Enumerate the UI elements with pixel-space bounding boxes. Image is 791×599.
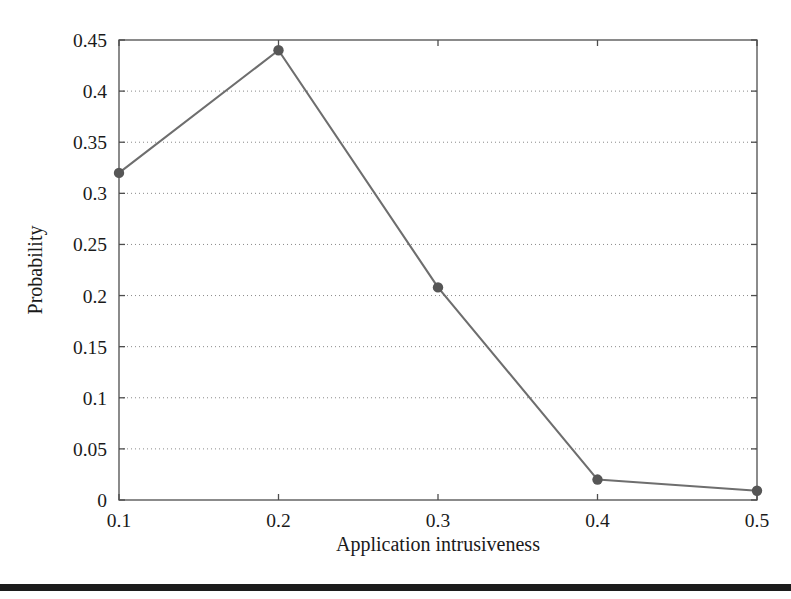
probability-vs-intrusiveness-line-chart: 00.050.10.150.20.250.30.350.40.45 0.10.2… — [0, 0, 791, 599]
x-tick-label: 0.2 — [266, 510, 290, 531]
bottom-horizontal-rule — [0, 584, 791, 591]
series-polyline — [119, 50, 757, 491]
y-axis-tick-labels: 00.050.10.150.20.250.30.350.40.45 — [73, 30, 107, 511]
x-axis-title: Application intrusiveness — [336, 533, 540, 556]
y-tick-label: 0 — [97, 490, 107, 511]
data-point-marker — [752, 486, 762, 496]
axes-frame — [119, 40, 757, 500]
figure-container: 00.050.10.150.20.250.30.350.40.45 0.10.2… — [0, 0, 791, 599]
y-tick-label: 0.15 — [73, 337, 107, 358]
gridlines — [119, 91, 757, 449]
y-axis-title: Probability — [24, 226, 47, 315]
data-point-marker — [114, 168, 124, 178]
y-tick-label: 0.4 — [83, 81, 108, 102]
x-tick-label: 0.4 — [585, 510, 610, 531]
y-tick-label: 0.35 — [73, 132, 107, 153]
y-tick-label: 0.45 — [73, 30, 107, 51]
y-tick-label: 0.2 — [83, 286, 107, 307]
plot-frame — [119, 40, 757, 500]
data-point-marker — [592, 474, 602, 484]
x-tick-label: 0.1 — [107, 510, 131, 531]
x-tick-label: 0.3 — [426, 510, 450, 531]
y-tick-label: 0.05 — [73, 439, 107, 460]
axis-tick-marks — [119, 40, 757, 500]
data-series-line — [119, 50, 757, 491]
data-point-marker — [433, 282, 443, 292]
data-point-marker — [273, 45, 283, 55]
y-tick-label: 0.1 — [83, 388, 107, 409]
y-tick-label: 0.25 — [73, 234, 107, 255]
y-tick-label: 0.3 — [83, 183, 107, 204]
x-tick-label: 0.5 — [745, 510, 769, 531]
data-point-markers — [114, 45, 762, 496]
x-axis-tick-labels: 0.10.20.30.40.5 — [107, 510, 769, 531]
